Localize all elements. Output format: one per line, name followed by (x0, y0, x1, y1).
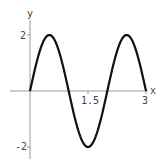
y-tick-label-bottom: -2 (15, 141, 27, 152)
y-tick-label-top: 2 (20, 30, 26, 41)
x-axis-label: x (150, 85, 156, 96)
plot: y x 2 -2 1.5 3 (0, 0, 163, 164)
y-axis-label: y (27, 8, 33, 19)
x-tick-label-3: 3 (142, 95, 148, 106)
x-tick-label-1-5: 1.5 (81, 95, 99, 106)
